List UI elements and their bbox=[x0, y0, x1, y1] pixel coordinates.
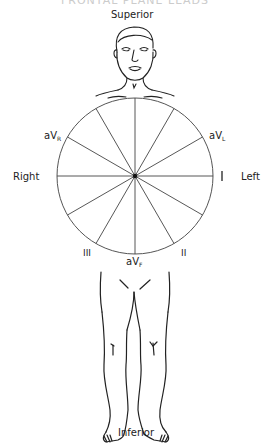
human-figure-with-hexaxial-diagram bbox=[0, 0, 268, 445]
left-label: Left bbox=[241, 172, 260, 182]
lead-II-label: II bbox=[181, 249, 186, 258]
lead-aVR-label: aVR bbox=[44, 131, 61, 142]
head-illustration bbox=[96, 27, 174, 98]
lower-body-illustration bbox=[100, 272, 169, 442]
center-point bbox=[133, 174, 137, 178]
superior-label: Superior bbox=[111, 10, 153, 20]
lead-III-label: III bbox=[83, 249, 91, 258]
lead-aVL-label: aVL bbox=[209, 131, 225, 142]
right-label: Right bbox=[13, 172, 39, 182]
inferior-label: Inferior bbox=[118, 428, 154, 438]
lead-aVF-label: aVF bbox=[126, 257, 142, 268]
